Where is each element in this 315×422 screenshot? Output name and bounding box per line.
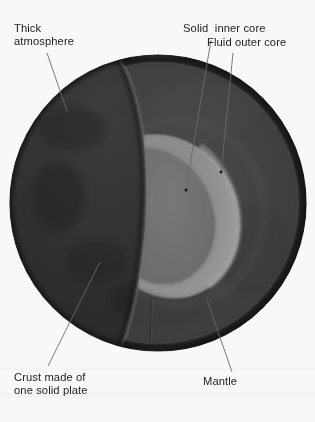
planet-cutaway-illustration <box>0 0 315 422</box>
label-thick-atmosphere: Thick atmosphere <box>14 22 74 49</box>
leader-dot-outer-core <box>220 171 223 174</box>
label-crust-made-of-one-solid-plate: Crust made of one solid plate <box>14 371 88 398</box>
label-solid-inner-core: Solid inner core <box>183 22 266 35</box>
label-fluid-outer-core: Fluid outer core <box>207 36 286 49</box>
leader-dot-inner-core <box>185 189 188 192</box>
figure-canvas: Thick atmosphere Solid inner core Fluid … <box>0 0 315 422</box>
label-mantle: Mantle <box>203 375 237 388</box>
